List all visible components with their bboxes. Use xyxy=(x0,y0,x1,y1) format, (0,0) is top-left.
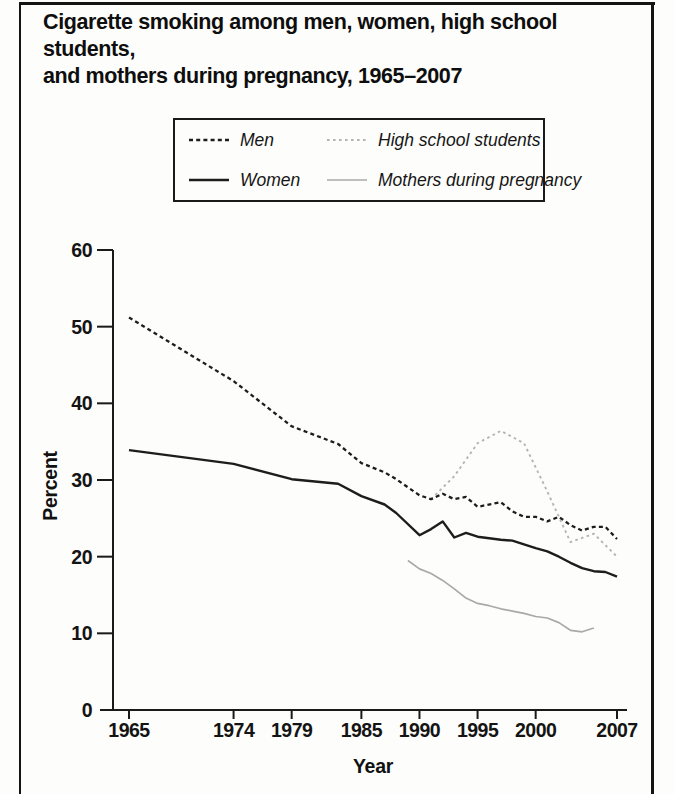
figure-panel: Cigarette smoking among men, women, high… xyxy=(0,0,675,794)
series-women-line xyxy=(129,450,617,576)
series-men-line xyxy=(129,318,617,540)
y-tick-label-50: 50 xyxy=(71,316,92,338)
x-tick-label-1985: 1985 xyxy=(341,719,383,741)
chart-plot-area: 0102030405060196519741979198519901995200… xyxy=(0,0,675,794)
x-tick-label-1965: 1965 xyxy=(108,719,150,741)
y-tick-label-20: 20 xyxy=(71,546,92,568)
y-axis-label: Percent xyxy=(39,446,61,526)
series-mothers_during_pregnancy-line xyxy=(408,561,594,632)
x-tick-label-1974: 1974 xyxy=(213,719,255,741)
y-tick-label-30: 30 xyxy=(71,469,92,491)
series-high_school_students-line xyxy=(431,431,617,557)
x-tick-label-1990: 1990 xyxy=(399,719,441,741)
y-tick-label-0: 0 xyxy=(82,699,93,721)
y-tick-label-60: 60 xyxy=(71,239,92,261)
x-axis-label: Year xyxy=(333,755,413,778)
x-tick-label-1979: 1979 xyxy=(271,719,313,741)
y-tick-label-40: 40 xyxy=(71,392,92,414)
x-tick-label-1995: 1995 xyxy=(457,719,499,741)
x-tick-label-2007: 2007 xyxy=(596,719,637,741)
x-tick-label-2000: 2000 xyxy=(515,719,557,741)
y-tick-label-10: 10 xyxy=(71,622,92,644)
